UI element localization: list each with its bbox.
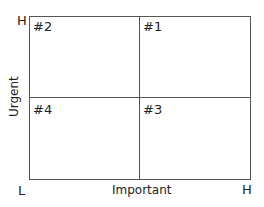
- x-axis-label: Important: [112, 183, 172, 197]
- y-axis-high-label: H: [17, 14, 27, 27]
- quadrant-top-right-label: #1: [143, 20, 162, 33]
- quadrant-bottom-left-label: #4: [33, 103, 52, 116]
- quadrant-top-left-label: #2: [33, 20, 52, 33]
- x-axis-low-label: L: [18, 184, 25, 197]
- quadrant-bottom-right-label: #3: [143, 103, 162, 116]
- vertical-divider: [139, 16, 140, 180]
- horizontal-divider: [29, 97, 251, 98]
- x-axis-high-label: H: [242, 183, 252, 196]
- y-axis-label: Urgent: [7, 77, 21, 117]
- matrix-frame: [29, 16, 251, 180]
